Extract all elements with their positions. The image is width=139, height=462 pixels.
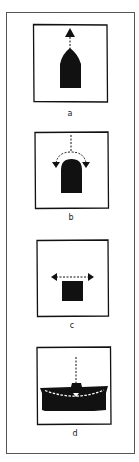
square-block-shape — [62, 281, 83, 301]
diagram-figure: a b c d — [0, 0, 139, 462]
arrow-down-left-icon — [52, 162, 60, 168]
arrow-down-right-icon — [82, 162, 90, 168]
panel-c-box — [37, 240, 109, 317]
panel-a-label: a — [60, 109, 80, 119]
rounded-block-shape — [61, 159, 82, 193]
panel-d-label: d — [65, 429, 85, 439]
panel-d — [37, 347, 111, 425]
diagram-canvas — [0, 0, 139, 462]
up-arrow-icon — [65, 28, 75, 37]
arrow-left-icon — [51, 273, 57, 281]
panel-a — [34, 25, 108, 103]
panel-c — [37, 240, 109, 317]
panel-c-label: c — [62, 321, 82, 331]
arrow-right-icon — [88, 273, 94, 281]
panel-b — [35, 132, 109, 209]
panel-b-label: b — [61, 213, 81, 223]
wide-block-shape — [40, 383, 108, 411]
pointed-block-shape — [60, 48, 81, 88]
